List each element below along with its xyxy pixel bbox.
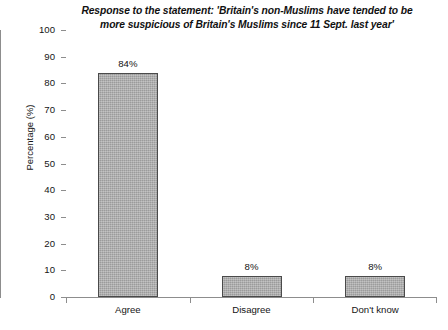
y-axis-tick-label: 70 bbox=[44, 104, 55, 115]
y-axis-tick-label: 100 bbox=[39, 24, 55, 35]
bar[interactable] bbox=[98, 73, 158, 297]
x-axis-category-label: Disagree bbox=[192, 304, 312, 315]
chart-title-line-1: Response to the statement: 'Britain's no… bbox=[52, 4, 442, 18]
bar-value-label: 8% bbox=[222, 261, 282, 272]
y-axis-tick-label: 90 bbox=[44, 51, 55, 62]
y-axis-tick-label: 40 bbox=[44, 184, 55, 195]
y-axis-tick-label: 20 bbox=[44, 238, 55, 249]
chart-figure: Response to the statement: 'Britain's no… bbox=[0, 0, 448, 330]
y-axis-label: Percentage (%) bbox=[24, 78, 35, 198]
bar[interactable] bbox=[222, 276, 282, 297]
x-axis-category-label: Agree bbox=[68, 304, 188, 315]
bar-value-label: 84% bbox=[98, 58, 158, 69]
x-axis-right-cap bbox=[436, 298, 437, 303]
bar[interactable] bbox=[345, 276, 405, 297]
y-axis-tick-label: 0 bbox=[50, 291, 55, 302]
y-axis-tick-label: 80 bbox=[44, 77, 55, 88]
bar-value-label: 8% bbox=[345, 261, 405, 272]
x-axis-tick-mark bbox=[313, 298, 314, 303]
plot-area bbox=[66, 30, 437, 297]
chart-title: Response to the statement: 'Britain's no… bbox=[52, 4, 442, 31]
x-axis-category-label: Don't know bbox=[315, 304, 435, 315]
y-axis-tick-mark bbox=[61, 297, 66, 298]
x-axis-left-cap bbox=[66, 298, 67, 303]
y-axis-tick-label: 50 bbox=[44, 158, 55, 169]
x-axis-tick-mark bbox=[190, 298, 191, 303]
x-axis-line bbox=[66, 297, 437, 298]
y-axis-line bbox=[0, 30, 1, 298]
y-axis-tick-label: 30 bbox=[44, 211, 55, 222]
y-axis-tick-label: 10 bbox=[44, 264, 55, 275]
y-axis-tick-label: 60 bbox=[44, 131, 55, 142]
chart-title-line-2: more suspicious of Britain's Muslims sin… bbox=[52, 18, 442, 32]
